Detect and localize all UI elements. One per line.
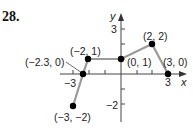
- tick-label-x-3: 3: [165, 76, 171, 88]
- y-axis: [118, 13, 125, 122]
- y-axis-arrow-icon: [118, 13, 124, 21]
- label-point-3-0: (3, 0): [163, 56, 188, 68]
- y-axis-label: y: [109, 10, 117, 22]
- label-leader-line: [66, 62, 82, 73]
- tick-label-x-neg3: −3: [64, 77, 76, 89]
- point-neg2.3-0: [80, 71, 86, 77]
- label-point-2-2: (2, 2): [143, 30, 168, 42]
- label-point-neg3-neg2: (−3, −2): [54, 111, 91, 123]
- point-0-1: [118, 56, 124, 62]
- piecewise-graph: (−3, −2) (−2.3, 0) (−2, 1) (0, 1) (2, 2)…: [0, 0, 193, 133]
- x-axis-label: x: [180, 76, 187, 88]
- label-point-neg2.3-0: (−2.3, 0): [25, 56, 64, 68]
- label-point-neg2-1: (−2, 1): [70, 45, 101, 57]
- tick-label-y-neg2: −2: [106, 99, 118, 111]
- label-point-0-1: (0, 1): [127, 56, 152, 68]
- tick-label-y-3: 3: [111, 23, 117, 35]
- point-neg3-neg2: [70, 103, 76, 109]
